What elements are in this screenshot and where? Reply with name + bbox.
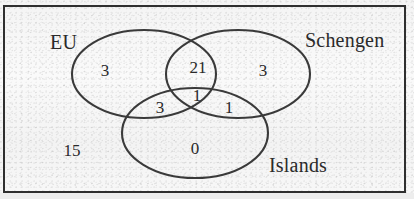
region-count-schengen-islands: 1 (218, 99, 240, 116)
venn-diagram-figure: EU Schengen Islands 3 3 21 1 3 1 0 15 (0, 0, 414, 199)
region-count-outside: 15 (58, 142, 86, 159)
region-count-schengen-only: 3 (251, 62, 275, 79)
set-label-schengen: Schengen (305, 30, 384, 50)
set-label-eu: EU (50, 32, 77, 52)
region-count-all-three: 1 (186, 87, 208, 104)
region-count-eu-schengen: 21 (184, 59, 212, 76)
region-count-eu-only: 3 (93, 62, 117, 79)
region-count-islands-only: 0 (184, 140, 206, 157)
set-label-islands: Islands (269, 155, 327, 175)
region-count-eu-islands: 3 (149, 99, 171, 116)
